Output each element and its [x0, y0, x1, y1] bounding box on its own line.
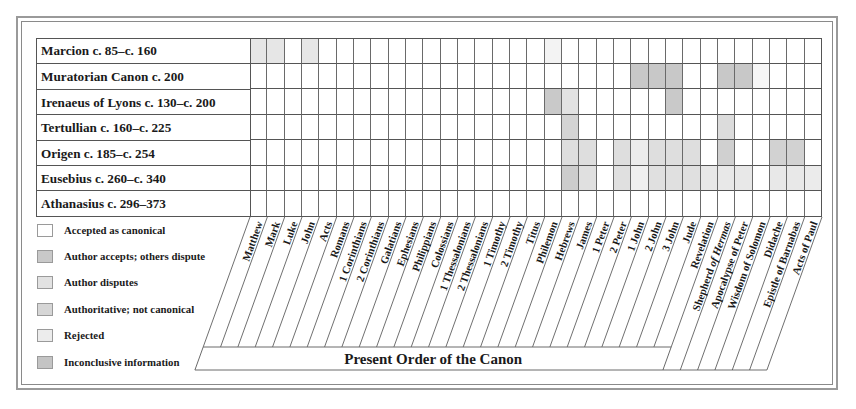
- lane-divider: [481, 217, 528, 347]
- legend-swatch-author-disputes: [37, 276, 53, 289]
- column-label: Matthew: [240, 219, 265, 262]
- lane-divider: [238, 217, 285, 347]
- lane-divider: [342, 217, 389, 347]
- legend-swatch-rejected: [37, 329, 53, 342]
- legend-label: Rejected: [64, 327, 104, 343]
- legend-label: Author accepts; others dispute: [64, 248, 205, 264]
- lane-divider: [654, 217, 701, 347]
- lane-divider: [550, 217, 597, 347]
- lane-divider: [290, 217, 337, 347]
- lane-divider: [533, 217, 580, 347]
- lane-divider: [203, 217, 250, 347]
- present-order-label: Present Order of the Canon: [344, 351, 522, 367]
- lane-divider: [463, 217, 510, 347]
- legend-label: Authoritative; not canonical: [64, 301, 194, 317]
- lane-divider: [498, 217, 545, 347]
- legend-swatch-inconclusive: [37, 356, 53, 369]
- lane-divider: [637, 217, 684, 347]
- lane-divider: [567, 217, 614, 347]
- legend-label: Author disputes: [64, 274, 138, 290]
- lane-divider: [255, 217, 302, 347]
- lane-divider: [377, 217, 424, 347]
- legend-swatch-author-accepts: [37, 250, 53, 263]
- lane-divider: [273, 217, 320, 347]
- lane-divider: [446, 217, 493, 347]
- lane-divider: [585, 217, 632, 347]
- legend-swatch-authoritative: [37, 303, 53, 316]
- legend-swatch-accepted: [37, 224, 53, 237]
- column-labels-area: Present Order of the CanonMatthewMarkLuk…: [0, 0, 856, 409]
- lane-divider: [221, 217, 268, 347]
- lane-divider: [359, 217, 406, 347]
- lane-divider: [515, 217, 562, 347]
- legend-label: Accepted as canonical: [64, 222, 165, 238]
- lane-divider: [602, 217, 649, 347]
- lane-divider: [619, 217, 666, 347]
- legend-label: Inconclusive information: [64, 354, 179, 370]
- column-label: Acts: [316, 220, 334, 243]
- lane-divider: [394, 217, 441, 347]
